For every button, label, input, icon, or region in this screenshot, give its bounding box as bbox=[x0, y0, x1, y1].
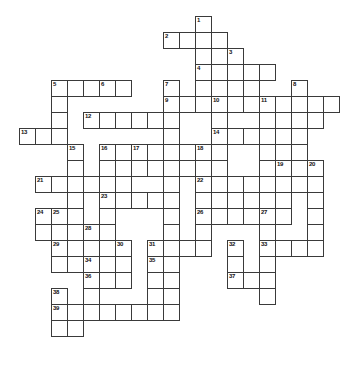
crossword-cell[interactable] bbox=[211, 208, 228, 225]
crossword-cell-numbered-30[interactable]: 30 bbox=[115, 240, 132, 257]
crossword-cell[interactable] bbox=[147, 160, 164, 177]
crossword-cell[interactable] bbox=[51, 96, 68, 113]
crossword-cell[interactable] bbox=[147, 112, 164, 129]
crossword-cell[interactable] bbox=[275, 96, 292, 113]
crossword-cell-numbered-2[interactable]: 2 bbox=[163, 32, 180, 49]
crossword-cell[interactable] bbox=[115, 304, 132, 321]
crossword-cell[interactable] bbox=[115, 272, 132, 289]
crossword-cell[interactable] bbox=[227, 80, 244, 97]
crossword-cell-numbered-4[interactable]: 4 bbox=[195, 64, 212, 81]
crossword-cell-numbered-25[interactable]: 25 bbox=[51, 208, 68, 225]
crossword-cell[interactable] bbox=[67, 320, 84, 337]
crossword-cell[interactable] bbox=[243, 208, 260, 225]
crossword-cell-numbered-36[interactable]: 36 bbox=[83, 272, 100, 289]
crossword-cell[interactable] bbox=[163, 176, 180, 193]
crossword-cell[interactable] bbox=[83, 288, 100, 305]
crossword-cell[interactable] bbox=[147, 144, 164, 161]
crossword-cell[interactable] bbox=[131, 112, 148, 129]
crossword-cell[interactable] bbox=[195, 80, 212, 97]
crossword-cell[interactable] bbox=[99, 304, 116, 321]
crossword-cell[interactable] bbox=[275, 192, 292, 209]
crossword-cell[interactable] bbox=[147, 272, 164, 289]
crossword-cell[interactable] bbox=[211, 144, 228, 161]
crossword-cell[interactable] bbox=[51, 112, 68, 129]
crossword-cell[interactable] bbox=[291, 96, 308, 113]
crossword-cell-numbered-5[interactable]: 5 bbox=[51, 80, 68, 97]
crossword-cell[interactable] bbox=[211, 176, 228, 193]
crossword-cell[interactable] bbox=[227, 128, 244, 145]
crossword-cell[interactable] bbox=[163, 160, 180, 177]
crossword-cell-numbered-32[interactable]: 32 bbox=[227, 240, 244, 257]
crossword-cell-numbered-8[interactable]: 8 bbox=[291, 80, 308, 97]
crossword-cell-numbered-13[interactable]: 13 bbox=[19, 128, 36, 145]
crossword-cell[interactable] bbox=[115, 80, 132, 97]
crossword-cell[interactable] bbox=[147, 288, 164, 305]
crossword-cell[interactable] bbox=[243, 80, 260, 97]
crossword-cell-numbered-31[interactable]: 31 bbox=[147, 240, 164, 257]
crossword-cell[interactable] bbox=[259, 176, 276, 193]
crossword-cell[interactable] bbox=[227, 256, 244, 273]
crossword-cell-numbered-3[interactable]: 3 bbox=[227, 48, 244, 65]
crossword-cell[interactable] bbox=[195, 192, 212, 209]
crossword-cell-numbered-6[interactable]: 6 bbox=[99, 80, 116, 97]
crossword-cell[interactable] bbox=[179, 96, 196, 113]
crossword-cell[interactable] bbox=[211, 80, 228, 97]
crossword-cell[interactable] bbox=[259, 144, 276, 161]
crossword-cell[interactable] bbox=[259, 112, 276, 129]
crossword-cell-numbered-1[interactable]: 1 bbox=[195, 16, 212, 33]
crossword-cell[interactable] bbox=[179, 144, 196, 161]
crossword-cell[interactable] bbox=[163, 112, 180, 129]
crossword-cell[interactable] bbox=[291, 128, 308, 145]
crossword-cell[interactable] bbox=[307, 240, 324, 257]
crossword-cell[interactable] bbox=[163, 304, 180, 321]
crossword-cell[interactable] bbox=[115, 144, 132, 161]
crossword-cell[interactable] bbox=[163, 224, 180, 241]
crossword-cell[interactable] bbox=[291, 144, 308, 161]
crossword-cell[interactable] bbox=[307, 224, 324, 241]
crossword-cell[interactable] bbox=[259, 288, 276, 305]
crossword-cell-numbered-11[interactable]: 11 bbox=[259, 96, 276, 113]
crossword-cell[interactable] bbox=[99, 112, 116, 129]
crossword-cell[interactable] bbox=[67, 192, 84, 209]
crossword-cell[interactable] bbox=[163, 192, 180, 209]
crossword-cell[interactable] bbox=[195, 32, 212, 49]
crossword-cell[interactable] bbox=[83, 304, 100, 321]
crossword-cell[interactable] bbox=[211, 192, 228, 209]
crossword-cell[interactable] bbox=[67, 224, 84, 241]
crossword-cell[interactable] bbox=[179, 160, 196, 177]
crossword-cell-numbered-21[interactable]: 21 bbox=[35, 176, 52, 193]
crossword-cell[interactable] bbox=[163, 288, 180, 305]
crossword-cell[interactable] bbox=[211, 48, 228, 65]
crossword-cell[interactable] bbox=[195, 224, 212, 241]
crossword-cell[interactable] bbox=[275, 128, 292, 145]
crossword-cell-numbered-26[interactable]: 26 bbox=[195, 208, 212, 225]
crossword-cell[interactable] bbox=[163, 256, 180, 273]
crossword-cell-numbered-35[interactable]: 35 bbox=[147, 256, 164, 273]
crossword-cell-numbered-27[interactable]: 27 bbox=[259, 208, 276, 225]
crossword-cell[interactable] bbox=[323, 96, 340, 113]
crossword-cell[interactable] bbox=[99, 256, 116, 273]
crossword-cell[interactable] bbox=[259, 192, 276, 209]
crossword-cell[interactable] bbox=[259, 224, 276, 241]
crossword-cell[interactable] bbox=[67, 208, 84, 225]
crossword-cell-numbered-7[interactable]: 7 bbox=[163, 80, 180, 97]
crossword-cell[interactable] bbox=[115, 192, 132, 209]
crossword-cell[interactable] bbox=[163, 272, 180, 289]
crossword-cell[interactable] bbox=[259, 128, 276, 145]
crossword-cell-numbered-28[interactable]: 28 bbox=[83, 224, 100, 241]
crossword-cell[interactable] bbox=[51, 224, 68, 241]
crossword-cell[interactable] bbox=[195, 160, 212, 177]
crossword-cell-numbered-18[interactable]: 18 bbox=[195, 144, 212, 161]
crossword-cell[interactable] bbox=[51, 128, 68, 145]
crossword-cell[interactable] bbox=[195, 240, 212, 257]
crossword-cell[interactable] bbox=[163, 144, 180, 161]
crossword-cell-numbered-16[interactable]: 16 bbox=[99, 144, 116, 161]
crossword-cell[interactable] bbox=[67, 160, 84, 177]
crossword-cell[interactable] bbox=[115, 112, 132, 129]
crossword-cell[interactable] bbox=[131, 160, 148, 177]
crossword-cell[interactable] bbox=[243, 64, 260, 81]
crossword-cell[interactable] bbox=[275, 144, 292, 161]
crossword-cell[interactable] bbox=[243, 272, 260, 289]
crossword-cell[interactable] bbox=[275, 208, 292, 225]
crossword-cell[interactable] bbox=[115, 256, 132, 273]
